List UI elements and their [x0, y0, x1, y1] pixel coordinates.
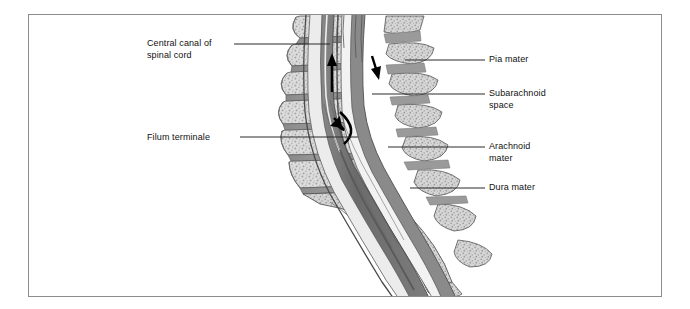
spine-anatomy-illustration	[0, 0, 690, 309]
label-central-canal-of-spinal-cord: Central canal of spinal cord	[147, 38, 212, 61]
label-pia-mater: Pia mater	[489, 54, 528, 66]
label-arachnoid-mater: Arachnoid mater	[489, 141, 530, 164]
label-filum-terminale: Filum terminale	[147, 132, 210, 144]
descending-csf-arrow	[371, 56, 381, 80]
label-subarachnoid-space: Subarachnoid space	[489, 88, 546, 111]
label-dura-mater: Dura mater	[489, 182, 535, 194]
